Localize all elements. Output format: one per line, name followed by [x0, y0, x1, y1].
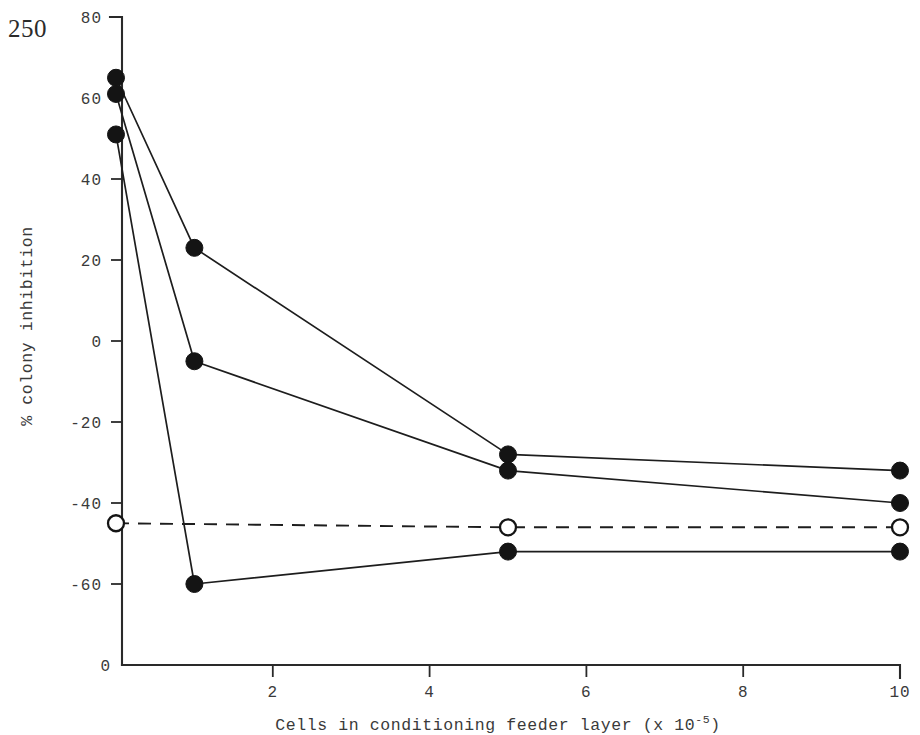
x-axis-tick-labels: 246810: [267, 684, 910, 702]
y-axis-tick-label: 40: [81, 172, 102, 190]
series-line-series-2-filled-middle: [116, 94, 900, 503]
data-point-filled-circle: [892, 495, 909, 512]
data-point-filled-circle: [892, 462, 909, 479]
colony-inhibition-line-chart: -60-40-20020406080 246810 0 Cells in con…: [0, 0, 920, 735]
y-axis-tick-label: 60: [81, 91, 102, 109]
data-point-open-circle: [108, 515, 124, 531]
x-axis-line: [122, 665, 900, 678]
data-point-filled-circle: [892, 543, 909, 560]
x-axis-tick-label: 2: [267, 684, 278, 702]
data-point-filled-circle: [186, 353, 203, 370]
series-line-series-3-filled-lower: [116, 134, 900, 584]
x-axis-tick-label: 10: [889, 684, 910, 702]
x-axis-title-main: Cells in conditioning feeder layer (x 10: [275, 716, 695, 735]
y-axis-title: % colony inhibition: [18, 226, 37, 426]
y-axis-title-wrap: % colony inhibition: [18, 226, 37, 426]
x-axis-title-superscript: -5: [695, 713, 710, 726]
axes-group: [110, 17, 900, 678]
data-point-open-circle: [500, 519, 516, 535]
y-axis-tick-label: -40: [70, 496, 102, 514]
y-axis-tick-labels: -60-40-20020406080: [70, 10, 102, 595]
data-point-filled-circle: [500, 462, 517, 479]
data-point-open-circle: [892, 519, 908, 535]
data-point-filled-circle: [500, 543, 517, 560]
data-point-filled-circle: [186, 239, 203, 256]
x-axis-tick-label: 4: [424, 684, 435, 702]
y-axis-tick-label: -20: [70, 415, 102, 433]
x-axis-tick-label: 8: [738, 684, 749, 702]
y-axis-origin-label: 0: [100, 658, 110, 676]
data-series-group: [108, 69, 909, 592]
x-axis-title: Cells in conditioning feeder layer (x 10…: [275, 713, 721, 735]
data-point-filled-circle: [108, 85, 125, 102]
y-axis-tick-label: 20: [81, 253, 102, 271]
figure-root: 250 -60-40-20020406080 246810 0 Cells in…: [0, 0, 920, 735]
data-point-filled-circle: [186, 576, 203, 593]
y-axis-tick-label: -60: [70, 577, 102, 595]
y-axis-tick-label: 80: [81, 10, 102, 28]
x-axis-tick-label: 6: [581, 684, 592, 702]
series-line-series-1-filled-upper: [116, 78, 900, 471]
data-point-filled-circle: [500, 446, 517, 463]
y-axis-tick-label: 0: [91, 334, 102, 352]
x-axis-ticks: [273, 665, 743, 677]
data-point-filled-circle: [108, 126, 125, 143]
x-axis-title-suffix: ): [710, 716, 721, 735]
data-point-filled-circle: [108, 69, 125, 86]
